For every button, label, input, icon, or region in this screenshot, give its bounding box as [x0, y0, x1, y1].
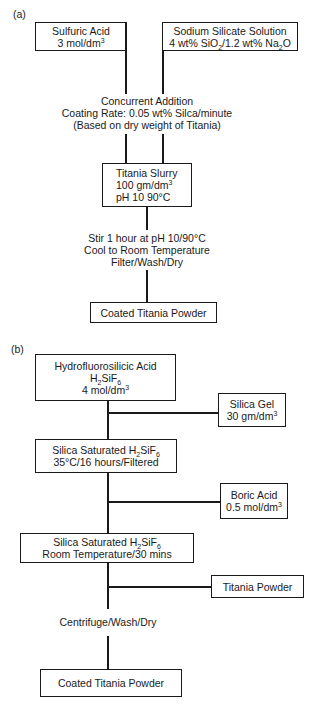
titania-slurry-box: Titania Slurry 100 gm/dm3 pH 10 90°C: [102, 163, 192, 207]
sulfuric-acid-box: Sulfuric Acid 3 mol/dm3: [35, 22, 127, 51]
silica-saturated-box-2: Silica Saturated H2SiF6 Room Temperature…: [20, 533, 194, 563]
coated-titania-powder-box-b: Coated Titania Powder: [40, 669, 182, 697]
slurry-name: Titania Slurry: [116, 167, 177, 179]
panel-a-label: (a): [13, 8, 26, 20]
silica-gel-box: Silica Gel 30 gm/dm3: [218, 393, 286, 427]
connector-line: [146, 206, 148, 230]
connector-line: [107, 586, 212, 588]
connector-line: [162, 134, 164, 164]
concurrent-addition-text: Concurrent Addition Coating Rate: 0.05 w…: [0, 95, 294, 131]
connector-line: [107, 472, 109, 534]
sulfuric-acid-concentration: 3 mol/dm3: [57, 37, 104, 49]
connector-line: [146, 270, 148, 303]
formula: H2SiF6: [90, 372, 121, 384]
slurry-concentration: 100 gm/dm3: [116, 179, 172, 191]
sodium-silicate-name: Sodium Silicate Solution: [173, 25, 286, 37]
connector-line: [162, 50, 164, 94]
connector-line: [107, 636, 109, 670]
centrifuge-text: Centrifuge/Wash/Dry: [40, 616, 176, 628]
sodium-silicate-composition: 4 wt% SiO2/1.2 wt% Na2O: [169, 37, 291, 49]
sodium-silicate-box: Sodium Silicate Solution 4 wt% SiO2/1.2 …: [162, 22, 298, 51]
process-steps-text: Stir 1 hour at pH 10/90°C Cool to Room T…: [47, 232, 247, 268]
silica-saturated-box-1: Silica Saturated H2SiF6 35°C/16 hours/Fi…: [35, 439, 177, 473]
boric-acid-box: Boric Acid 0.5 mol/dm3: [220, 483, 288, 519]
coated-titania-powder-box-a: Coated Titania Powder: [90, 302, 217, 323]
connector-line: [107, 400, 109, 440]
panel-b-label: (b): [11, 343, 24, 355]
hydrofluorosilicic-acid-box: Hydrofluorosilicic Acid H2SiF6 4 mol/dm3: [35, 354, 176, 401]
titania-powder-box: Titania Powder: [211, 575, 304, 598]
slurry-conditions: pH 10 90°C: [116, 191, 170, 203]
connector-line: [125, 134, 127, 164]
connector-line: [107, 501, 221, 503]
connector-line: [107, 412, 219, 414]
connector-line: [125, 22, 127, 94]
sulfuric-acid-name: Sulfuric Acid: [52, 25, 110, 37]
